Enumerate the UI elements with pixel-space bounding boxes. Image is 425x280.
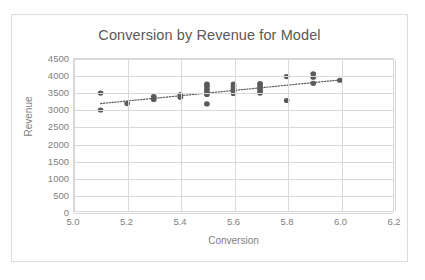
gridline-horizontal xyxy=(74,59,393,60)
gridline-horizontal xyxy=(74,127,393,128)
x-axis-title: Conversion xyxy=(73,235,394,246)
data-point xyxy=(151,97,157,102)
y-tick-label: 1000 xyxy=(48,172,69,183)
gridline-horizontal xyxy=(74,196,393,197)
x-tick-label: 5.2 xyxy=(120,216,133,227)
gridline-vertical xyxy=(74,59,75,211)
y-tick-label: 2500 xyxy=(48,121,69,132)
y-tick-label: 4000 xyxy=(48,70,69,81)
scatter-plot-series xyxy=(74,59,393,211)
gridline-horizontal xyxy=(74,76,393,77)
chart-title: Conversion by Revenue for Model xyxy=(12,27,407,43)
gridline-horizontal xyxy=(74,93,393,94)
y-tick-label: 3000 xyxy=(48,104,69,115)
gridline-horizontal xyxy=(74,110,393,111)
x-tick-label: 5.4 xyxy=(173,216,186,227)
chart-frame: Conversion by Revenue for Model Revenue … xyxy=(11,14,408,262)
x-tick-label: 5.6 xyxy=(227,216,240,227)
x-tick-label: 6.0 xyxy=(334,216,347,227)
gridline-horizontal xyxy=(74,213,393,214)
gridline-vertical xyxy=(235,59,236,211)
x-tick-label: 5.8 xyxy=(280,216,293,227)
gridline-vertical xyxy=(128,59,129,211)
gridline-vertical xyxy=(288,59,289,211)
gridline-vertical xyxy=(342,59,343,211)
y-tick-label: 2000 xyxy=(48,138,69,149)
y-tick-label: 3500 xyxy=(48,87,69,98)
gridline-horizontal xyxy=(74,145,393,146)
y-tick-label: 1500 xyxy=(48,155,69,166)
gridline-vertical xyxy=(181,59,182,211)
gridline-horizontal xyxy=(74,179,393,180)
gridline-vertical xyxy=(395,59,396,211)
y-axis-tick-labels: 050010001500200025003000350040004500 xyxy=(29,58,69,212)
y-tick-label: 4500 xyxy=(48,53,69,64)
data-point xyxy=(204,101,210,106)
trendline xyxy=(101,80,340,104)
gridline-horizontal xyxy=(74,162,393,163)
y-tick-label: 500 xyxy=(53,189,69,200)
plot-area xyxy=(73,58,394,212)
x-tick-label: 5.0 xyxy=(66,216,79,227)
x-tick-label: 6.2 xyxy=(387,216,400,227)
x-axis-tick-labels: 5.05.25.45.65.86.06.2 xyxy=(73,216,394,230)
data-point xyxy=(310,81,316,86)
